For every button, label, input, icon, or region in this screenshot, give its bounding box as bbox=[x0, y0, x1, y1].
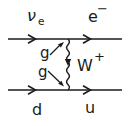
feynman-diagram: ν e e − g g W + d u bbox=[0, 0, 132, 126]
coupling-pointer-bottom-line bbox=[48, 71, 60, 83]
label-coupling-top: g bbox=[40, 44, 50, 62]
lepton-line bbox=[8, 35, 122, 43]
quark-line bbox=[8, 86, 122, 94]
label-neutrino-subscript: e bbox=[38, 15, 44, 27]
feynman-diagram-canvas: ν e e − g g W + d u bbox=[0, 0, 132, 126]
label-w-boson: W bbox=[77, 56, 93, 75]
label-u-quark: u bbox=[85, 98, 95, 117]
w-momentum-arrow-icon bbox=[65, 59, 71, 66]
label-w-boson-charge: + bbox=[94, 49, 105, 64]
label-neutrino: ν bbox=[27, 6, 36, 25]
label-coupling-bottom: g bbox=[38, 63, 48, 81]
coupling-pointer-top-line bbox=[50, 45, 61, 56]
label-electron-charge: − bbox=[97, 1, 108, 16]
coupling-pointer-bottom bbox=[48, 71, 64, 87]
label-d-quark: d bbox=[32, 100, 42, 119]
coupling-pointer-top bbox=[50, 42, 64, 55]
